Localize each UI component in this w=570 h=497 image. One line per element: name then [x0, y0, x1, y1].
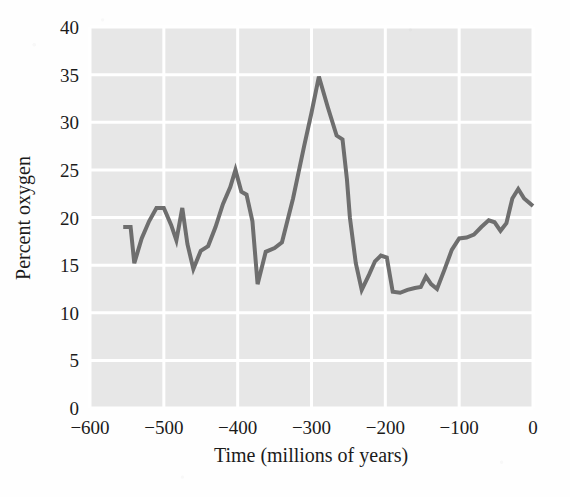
y-tick-label: 0: [70, 398, 80, 419]
y-tick-label: 40: [60, 17, 79, 38]
x-axis-tick-labels: −600−500−400−300−200−1000: [70, 417, 537, 438]
y-tick-label: 30: [60, 112, 79, 133]
oxygen-over-time-chart: 0510152025303540 −600−500−400−300−200−10…: [0, 0, 570, 497]
x-tick-label: −400: [218, 417, 257, 438]
x-axis-title: Time (millions of years): [214, 444, 408, 467]
y-tick-label: 5: [70, 350, 80, 371]
y-tick-label: 25: [60, 160, 79, 181]
y-tick-label: 15: [60, 255, 79, 276]
y-tick-label: 10: [60, 303, 79, 324]
chart-canvas: 0510152025303540 −600−500−400−300−200−10…: [0, 0, 570, 497]
x-tick-label: −200: [366, 417, 405, 438]
x-tick-label: −600: [70, 417, 109, 438]
y-tick-label: 20: [60, 208, 79, 229]
x-tick-label: −300: [292, 417, 331, 438]
y-axis-tick-labels: 0510152025303540: [60, 17, 79, 419]
x-tick-label: −500: [144, 417, 183, 438]
y-tick-label: 35: [60, 65, 79, 86]
x-tick-label: −100: [440, 417, 479, 438]
x-tick-label: 0: [528, 417, 538, 438]
y-axis-title: Percent oxygen: [12, 156, 35, 280]
